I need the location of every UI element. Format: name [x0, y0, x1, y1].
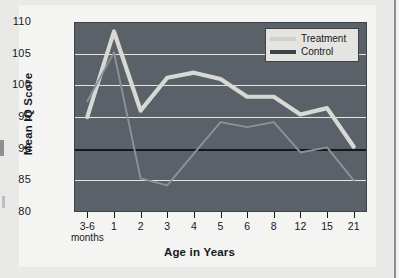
x-tick-9 — [327, 212, 328, 218]
legend-label-treatment: Treatment — [301, 33, 346, 44]
legend-item-treatment: Treatment — [270, 32, 354, 45]
chart-figure: 11010510095908580 3-6months1234568121521… — [0, 0, 399, 278]
legend-swatch-control-icon — [270, 50, 296, 54]
x-tick-label-10: 21 — [348, 221, 360, 232]
x-tick-6 — [247, 212, 248, 218]
x-tick-label-5: 5 — [218, 221, 224, 232]
x-tick-label-1: 1 — [111, 221, 117, 232]
y-tick-label-105: 105 — [0, 47, 31, 59]
x-tick-label-7: 8 — [271, 221, 277, 232]
x-tick-3 — [167, 212, 168, 218]
x-tick-1 — [114, 212, 115, 218]
x-tick-label-sub-0: months — [71, 232, 104, 243]
x-tick-5 — [221, 212, 222, 218]
x-tick-label-0: 3-6months — [71, 221, 104, 243]
y-tick-label-80: 80 — [0, 205, 31, 217]
x-tick-0 — [87, 212, 88, 218]
y-tick-label-85: 85 — [0, 173, 31, 185]
x-tick-label-4: 4 — [191, 221, 197, 232]
x-tick-label-2: 2 — [138, 221, 144, 232]
x-tick-label-3: 3 — [164, 221, 170, 232]
x-tick-8 — [300, 212, 301, 218]
x-tick-10 — [354, 212, 355, 218]
y-tick-label-110: 110 — [0, 15, 31, 27]
legend-item-control: Control — [270, 45, 354, 58]
x-tick-4 — [194, 212, 195, 218]
x-tick-7 — [274, 212, 275, 218]
x-tick-label-9: 15 — [321, 221, 333, 232]
chart-legend: Treatment Control — [265, 28, 359, 62]
x-axis-title: Age in Years — [0, 246, 399, 258]
x-tick-label-6: 6 — [244, 221, 250, 232]
x-tick-label-8: 12 — [295, 221, 307, 232]
legend-swatch-treatment-icon — [270, 37, 296, 41]
y-axis-title: Mean IQ Score — [22, 59, 34, 169]
x-tick-2 — [141, 212, 142, 218]
legend-label-control: Control — [301, 46, 333, 57]
